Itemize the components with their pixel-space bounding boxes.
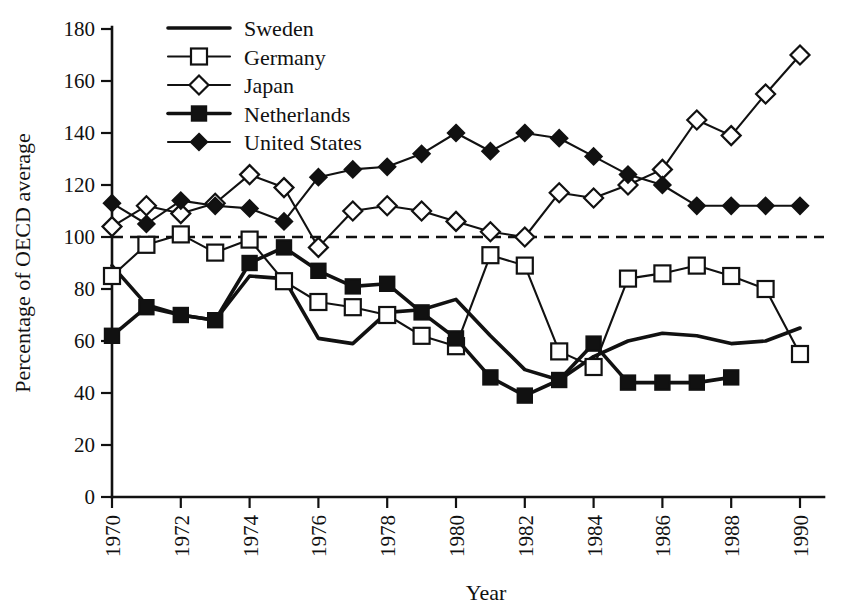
data-point-marker <box>346 279 360 293</box>
x-tick-label: 1972 <box>170 515 194 557</box>
data-point-marker <box>518 388 532 402</box>
legend-label: Germany <box>244 45 326 70</box>
data-point-marker <box>137 196 156 215</box>
y-axis-ticks: 020406080100120140160180 <box>64 17 113 509</box>
data-point-marker <box>378 196 397 215</box>
data-point-marker <box>448 125 464 141</box>
y-tick-label: 80 <box>74 277 95 301</box>
data-point-marker <box>515 228 534 247</box>
data-point-marker <box>414 328 430 344</box>
data-point-marker <box>276 273 292 289</box>
y-tick-label: 140 <box>64 121 96 145</box>
data-point-marker <box>517 258 533 274</box>
data-point-marker <box>104 195 120 211</box>
data-point-marker <box>655 375 669 389</box>
data-point-marker <box>277 240 291 254</box>
legend-item-japan: Japan <box>168 73 294 98</box>
data-point-marker <box>105 329 119 343</box>
x-tick-label: 1988 <box>720 515 744 557</box>
data-point-marker <box>482 143 498 159</box>
data-point-marker <box>345 161 361 177</box>
data-point-marker <box>584 189 603 208</box>
series-netherlands <box>105 240 739 403</box>
legend-label: United States <box>244 130 362 155</box>
y-tick-label: 40 <box>74 381 95 405</box>
data-point-marker <box>414 305 428 319</box>
legend-item-sweden: Sweden <box>168 16 314 41</box>
x-tick-label: 1990 <box>789 515 813 557</box>
data-point-marker <box>620 271 636 287</box>
data-point-marker <box>173 192 189 208</box>
data-point-marker <box>690 375 704 389</box>
data-point-marker <box>104 268 120 284</box>
series-line <box>112 247 731 395</box>
data-point-marker <box>757 198 773 214</box>
data-point-marker <box>792 346 808 362</box>
y-tick-label: 100 <box>64 225 96 249</box>
data-point-marker <box>551 130 567 146</box>
x-tick-label: 1974 <box>239 515 263 558</box>
data-point-marker <box>190 76 209 95</box>
y-tick-label: 20 <box>74 433 95 457</box>
data-point-marker <box>723 198 739 214</box>
y-tick-label: 60 <box>74 329 95 353</box>
x-tick-label: 1978 <box>376 515 400 557</box>
data-point-marker <box>191 49 207 65</box>
data-point-marker <box>208 313 222 327</box>
data-point-marker <box>241 200 257 216</box>
data-point-marker <box>138 216 154 232</box>
data-point-marker <box>413 146 429 162</box>
y-axis-title: Percentage of OECD average <box>10 133 35 393</box>
data-point-marker <box>242 232 258 248</box>
data-point-marker <box>482 247 498 263</box>
axis-lines <box>112 27 824 497</box>
data-point-marker <box>310 294 326 310</box>
data-point-marker <box>379 307 395 323</box>
x-tick-label: 1980 <box>445 515 469 557</box>
data-point-marker <box>481 222 500 241</box>
data-point-marker <box>174 308 188 322</box>
data-point-marker <box>654 177 670 193</box>
x-tick-label: 1982 <box>514 515 538 557</box>
data-point-marker <box>103 217 122 236</box>
legend-item-netherlands: Netherlands <box>168 102 350 127</box>
y-tick-label: 120 <box>64 173 96 197</box>
data-point-marker <box>724 370 738 384</box>
data-point-marker <box>758 281 774 297</box>
data-point-marker <box>345 299 361 315</box>
data-point-marker <box>379 159 395 175</box>
legend-item-united-states: United States <box>168 130 362 155</box>
y-tick-label: 180 <box>64 17 96 41</box>
x-tick-label: 1970 <box>101 515 125 557</box>
data-series-layer <box>103 46 810 403</box>
series-japan <box>103 46 810 257</box>
x-tick-label: 1976 <box>307 515 331 557</box>
data-point-marker <box>551 343 567 359</box>
y-tick-label: 0 <box>85 485 96 509</box>
x-axis-ticks: 1970197219741976197819801982198419861988… <box>101 497 813 557</box>
x-axis-title: Year <box>466 580 507 605</box>
data-point-marker <box>689 198 705 214</box>
data-point-marker <box>275 178 294 197</box>
legend-label: Japan <box>244 73 294 98</box>
data-point-marker <box>138 237 154 253</box>
data-point-marker <box>517 125 533 141</box>
data-point-marker <box>412 202 431 221</box>
data-point-marker <box>447 212 466 231</box>
data-point-marker <box>191 134 207 150</box>
data-point-marker <box>380 277 394 291</box>
line-chart: 020406080100120140160180 197019721974197… <box>0 0 842 610</box>
data-point-marker <box>311 264 325 278</box>
y-tick-label: 160 <box>64 69 96 93</box>
legend-label: Netherlands <box>244 102 350 127</box>
data-point-marker <box>483 370 497 384</box>
data-point-marker <box>173 226 189 242</box>
legend-item-germany: Germany <box>168 45 326 70</box>
data-point-marker <box>552 373 566 387</box>
data-point-marker <box>586 336 600 350</box>
data-point-marker <box>192 106 206 120</box>
data-point-marker <box>723 268 739 284</box>
data-point-marker <box>621 375 635 389</box>
data-point-marker <box>654 265 670 281</box>
chart-figure: 020406080100120140160180 197019721974197… <box>0 0 842 610</box>
